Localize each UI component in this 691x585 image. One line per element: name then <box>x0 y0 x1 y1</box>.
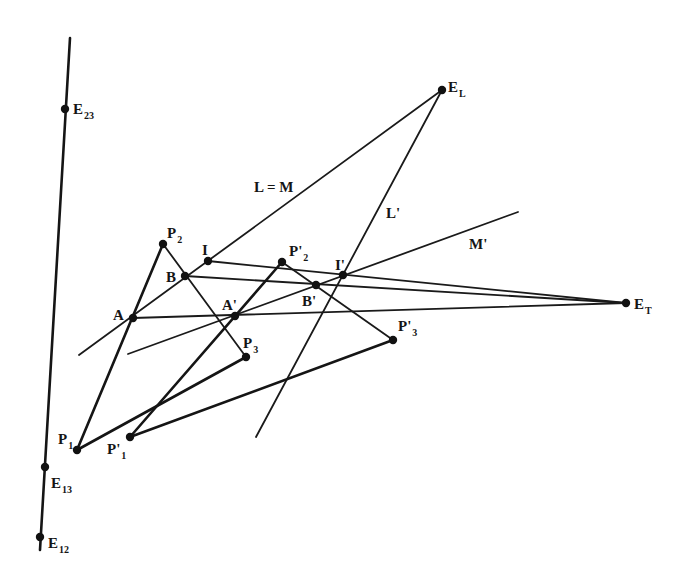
point-label-p1p: P'1 <box>107 441 126 461</box>
point-a <box>129 314 137 322</box>
line-M-prime <box>128 212 518 354</box>
diagram-canvas: E23E13E12ELETP1P2P3P'1P'2P'3ABIA'B'I'L =… <box>0 0 691 585</box>
point-label-et: ET <box>634 296 652 316</box>
point-label-e13: E13 <box>51 475 72 495</box>
point-p1 <box>73 446 81 454</box>
point-bp <box>312 281 320 289</box>
point-p2p <box>278 258 286 266</box>
edge-P1p-P2p <box>130 262 282 437</box>
label-L-prime: L' <box>386 205 400 221</box>
geometry-figure: E23E13E12ELETP1P2P3P'1P'2P'3ABIA'B'I'L =… <box>0 0 691 585</box>
point-p2 <box>159 240 167 248</box>
lines-layer <box>40 38 626 550</box>
point-p3p <box>389 336 397 344</box>
point-e12 <box>36 533 44 541</box>
point-i <box>204 257 212 265</box>
point-p1p <box>126 433 134 441</box>
point-label-e12: E12 <box>48 535 69 555</box>
point-el <box>438 86 446 94</box>
point-label-p2p: P'2 <box>289 243 308 263</box>
point-p3 <box>242 353 250 361</box>
label-M-prime: M' <box>469 236 487 252</box>
point-label-a: A <box>113 307 124 323</box>
point-label-p2: P2 <box>167 225 182 245</box>
edge-P3p-P1p <box>130 340 393 437</box>
point-b <box>181 272 189 280</box>
point-ap <box>231 312 239 320</box>
point-label-b: B <box>166 269 176 285</box>
point-label-e23: E23 <box>73 101 94 121</box>
point-label-ip: I' <box>335 257 345 273</box>
point-label-ap: A' <box>222 297 237 313</box>
point-label-el: EL <box>448 79 466 99</box>
point-label-bp: B' <box>302 293 316 309</box>
point-label-p3p: P'3 <box>398 318 417 338</box>
label-L-eq-M: L = M <box>254 179 293 195</box>
point-et <box>622 299 630 307</box>
vertical-line <box>40 38 70 550</box>
points-layer <box>36 86 630 541</box>
point-e13 <box>41 463 49 471</box>
point-label-p3: P3 <box>243 335 258 355</box>
point-e23 <box>61 105 69 113</box>
point-label-p1: P1 <box>58 431 73 451</box>
point-label-i: I <box>202 242 208 258</box>
